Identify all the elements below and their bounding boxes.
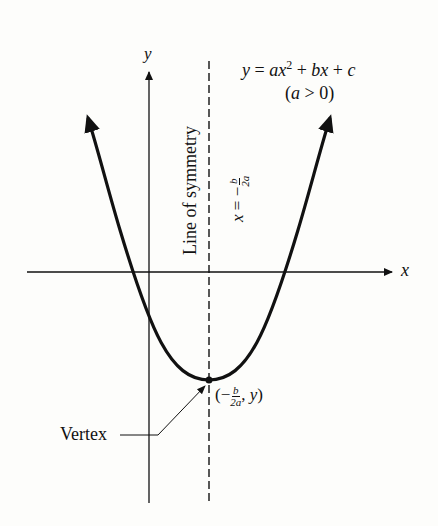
parabola-right-branch: [209, 118, 330, 380]
vertex-coordinates: (−b2a, y): [215, 385, 263, 408]
symmetry-equation: x = −b2a: [228, 176, 251, 222]
parabola-equation: y = ax2 + bx + c: [242, 58, 355, 81]
vertex-label: Vertex: [60, 424, 107, 445]
vertex-point: [206, 377, 213, 384]
parabola-diagram: [0, 0, 438, 526]
parabola-condition: (a > 0): [285, 83, 334, 104]
vertex-leader-line: [120, 386, 205, 435]
x-axis-label: x: [401, 260, 409, 281]
y-axis-label: y: [144, 44, 152, 64]
line-of-symmetry-label: Line of symmetry: [180, 126, 201, 255]
